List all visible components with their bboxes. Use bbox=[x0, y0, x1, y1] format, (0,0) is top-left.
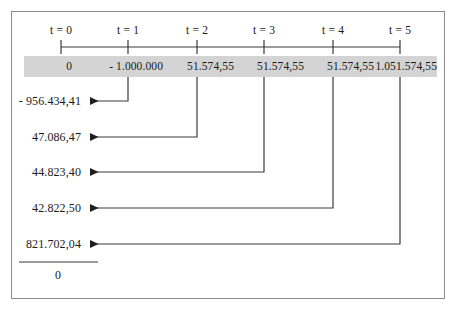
timeline-graphics bbox=[0, 0, 458, 315]
present-value-t5: 821.702,04 bbox=[26, 237, 81, 252]
axis-label-t2: t = 2 bbox=[186, 24, 208, 36]
axis-label-t0: t = 0 bbox=[50, 24, 72, 36]
present-value-t3: 44.823,40 bbox=[32, 165, 81, 180]
net-present-value-total: 0 bbox=[55, 268, 61, 283]
present-value-t4: 42.822,50 bbox=[32, 201, 81, 216]
cash-flow-value-t5: 1.051.574,55 bbox=[375, 60, 437, 72]
present-value-t2: 47.086,47 bbox=[32, 130, 81, 145]
cash-flow-value-t0: 0 bbox=[66, 60, 72, 72]
cash-flow-value-t2: 51.574,55 bbox=[187, 60, 234, 72]
axis-label-t1: t = 1 bbox=[117, 24, 139, 36]
discount-arrow-t5 bbox=[90, 77, 400, 244]
discount-arrow-t2 bbox=[90, 77, 197, 137]
cash-flow-value-t3: 51.574,55 bbox=[257, 60, 304, 72]
diagram-canvas: t = 0 t = 1 t = 2 t = 3 t = 4 t = 5 0 - … bbox=[0, 0, 458, 315]
present-value-t1: - 956.434,41 bbox=[19, 94, 81, 109]
axis-label-t5: t = 5 bbox=[389, 24, 411, 36]
discount-arrow-t4 bbox=[90, 77, 333, 208]
discount-arrow-t3 bbox=[90, 77, 264, 172]
cash-flow-value-t1: - 1.000.000 bbox=[109, 60, 163, 72]
cash-flow-value-t4: 51.574,55 bbox=[327, 60, 374, 72]
discount-arrow-t1 bbox=[90, 77, 128, 101]
axis-label-t4: t = 4 bbox=[322, 24, 344, 36]
axis-label-t3: t = 3 bbox=[253, 24, 275, 36]
